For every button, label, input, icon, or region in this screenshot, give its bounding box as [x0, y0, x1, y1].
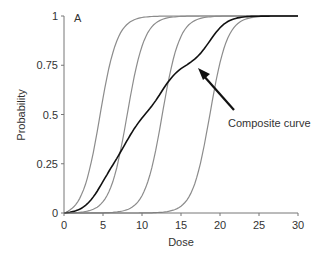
x-tick-label: 10 — [136, 219, 148, 231]
individual-curve — [64, 16, 298, 213]
x-tick-label: 15 — [175, 219, 187, 231]
panel-label: A — [74, 12, 82, 24]
x-tick-label: 25 — [253, 219, 265, 231]
y-tick-label: 0.75 — [37, 59, 58, 71]
x-tick-label: 20 — [214, 219, 226, 231]
individual-curve — [64, 16, 298, 213]
curves — [64, 16, 298, 213]
individual-curve — [64, 16, 298, 213]
y-tick-label: 0.25 — [37, 158, 58, 170]
composite-curve — [64, 16, 298, 213]
y-tick-label: 1 — [52, 10, 58, 22]
x-tick-label: 5 — [100, 219, 106, 231]
annotation-label: Composite curve — [228, 117, 311, 129]
y-axis-label: Probability — [15, 89, 27, 141]
annotation-arrow-icon — [198, 68, 234, 110]
x-axis-label: Dose — [168, 236, 194, 248]
y-tick-label: 0.5 — [43, 109, 58, 121]
x-tick-label: 0 — [61, 219, 67, 231]
x-tick-label: 30 — [292, 219, 304, 231]
y-ticks: 00.250.50.751 — [37, 10, 64, 219]
dose-response-chart: 051015202530 00.250.50.751 A Dose Probab… — [0, 0, 319, 255]
y-tick-label: 0 — [52, 207, 58, 219]
individual-curve — [64, 16, 298, 213]
x-ticks: 051015202530 — [61, 213, 304, 231]
